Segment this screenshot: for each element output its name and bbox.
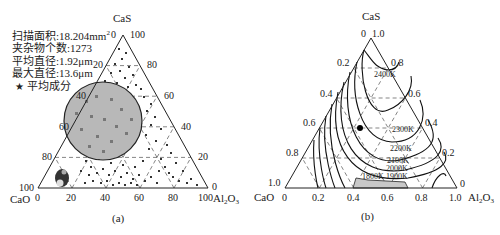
right-tick: 40 (181, 121, 191, 132)
right-tick: 0.6 (408, 88, 421, 99)
right-tick: 80 (147, 59, 157, 70)
left-tick: 60 (59, 121, 69, 132)
right-tick: 1.0 (372, 28, 385, 39)
ternary-chart-b: 2400K 2300K 2200K 2100K 2000K 1900K 1800… (254, 10, 494, 223)
bottom-tick: 20 (66, 192, 76, 203)
bottom-tick: 0.4 (347, 192, 360, 203)
cluster-highlight (62, 170, 67, 175)
right-tick: 0.2 (442, 147, 455, 158)
vertex-label-al2o3-a: Al2O3 (213, 192, 239, 206)
right-tick: 0 (460, 178, 465, 189)
left-tick: 0.4 (320, 88, 333, 99)
avg-composition-marker (357, 125, 363, 131)
isotherm-label: 1900K (386, 172, 408, 181)
vertex-label-cao-a: CaO (10, 193, 30, 205)
left-tick: 40 (76, 90, 86, 101)
bottom-tick: 100 (198, 192, 213, 203)
right-tick: 0 (212, 181, 217, 192)
isotherm-label: 2300K (392, 125, 414, 134)
right-tick: 60 (164, 90, 174, 101)
caption-b: (b) (361, 210, 374, 223)
left-tick: 100 (19, 182, 34, 193)
bottom-tick: 1.0 (449, 192, 462, 203)
right-tick: 0.8 (391, 57, 404, 68)
left-tick: 0 (111, 29, 116, 40)
right-tick: 20 (198, 151, 208, 162)
vertex-label-cao-b: CaO (254, 191, 274, 203)
left-tick: 1.0 (268, 177, 281, 188)
isotherm-label: 1800K (362, 172, 384, 181)
bottom-tick: 40 (100, 192, 110, 203)
isotherm-label: 2200K (390, 144, 412, 153)
figure-canvas: CaS CaO Al2O3 0 20 40 60 80 100 100 80 6… (0, 0, 500, 235)
vertex-label-al2o3-b: Al2O3 (468, 191, 494, 205)
right-tick: 0.4 (425, 117, 438, 128)
cluster-highlight (57, 180, 64, 187)
isotherm-label: 2400K (374, 70, 396, 79)
left-tick: 20 (93, 59, 103, 70)
right-tick: 100 (130, 29, 145, 40)
left-tick: 0 (361, 28, 366, 39)
bottom-tick: 60 (134, 192, 144, 203)
left-tick: 0.6 (303, 117, 316, 128)
bottom-tick: 0.8 (415, 192, 428, 203)
bottom-tick: 80 (168, 192, 178, 203)
bottom-tick: 0.6 (381, 192, 394, 203)
left-tick: 80 (42, 151, 52, 162)
vertex-label-cas-a: CaS (113, 12, 131, 24)
bottom-tick: 0 (282, 192, 287, 203)
vertex-label-cas-b: CaS (362, 10, 380, 22)
triangle-outline-b (285, 38, 457, 188)
bottom-tick: 0.2 (312, 192, 325, 203)
left-tick: 0.8 (286, 147, 299, 158)
ternary-chart-a: CaS CaO Al2O3 0 20 40 60 80 100 100 80 6… (10, 12, 239, 225)
caption-a: (a) (112, 212, 125, 225)
bottom-tick: 0 (35, 192, 40, 203)
left-tick: 0.2 (337, 57, 350, 68)
